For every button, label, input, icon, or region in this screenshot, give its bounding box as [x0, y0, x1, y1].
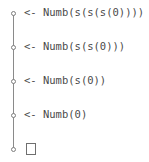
chain-diagram: <- Numb(s(s(s(0)))) <- Numb(s(s(0))) <- …	[0, 0, 149, 162]
chain-node-label-3: <- Numb(0)	[24, 108, 87, 121]
chain-node-label-0: <- Numb(s(s(s(0))))	[24, 6, 144, 19]
chain-node-0[interactable]	[11, 11, 16, 16]
empty-placeholder-box[interactable]	[26, 143, 36, 155]
chain-node-2[interactable]	[11, 79, 16, 84]
chain-node-4[interactable]	[11, 147, 16, 152]
chain-node-1[interactable]	[11, 45, 16, 50]
chain-node-label-2: <- Numb(s(0))	[24, 74, 106, 87]
chain-node-label-1: <- Numb(s(s(0)))	[24, 40, 125, 53]
chain-node-3[interactable]	[11, 113, 16, 118]
